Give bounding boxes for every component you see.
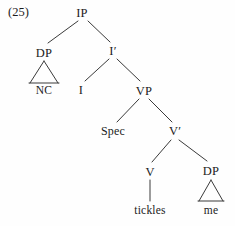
terminal-nc: NC xyxy=(36,85,52,97)
node-spec: Spec xyxy=(101,125,125,137)
branch-vp-vbar xyxy=(149,99,172,122)
node-vp: VP xyxy=(136,85,152,98)
node-v-head: V xyxy=(145,166,154,179)
node-v-bar: V′ xyxy=(169,125,181,138)
branch-ibar-i xyxy=(85,59,109,81)
triangle-me-right xyxy=(211,180,223,201)
syntax-tree-figure: (25) IP DP NC I′ I VP Spec V′ V tickles … xyxy=(0,0,235,226)
triangle-nc-right xyxy=(44,61,58,83)
branch-ip-ibar xyxy=(88,21,110,42)
branch-vp-spec xyxy=(117,99,139,122)
terminal-me: me xyxy=(204,205,218,217)
example-number: (25) xyxy=(8,6,29,19)
tree-branch-lines xyxy=(0,0,235,226)
triangle-me-left xyxy=(199,180,211,201)
branch-ip-dp xyxy=(48,21,78,43)
node-i-bar: I′ xyxy=(109,45,116,58)
node-dp-object: DP xyxy=(203,165,219,178)
branch-ibar-vp xyxy=(117,59,140,81)
node-i-head: I xyxy=(79,84,83,97)
node-ip: IP xyxy=(76,7,88,20)
branch-vbar-dp xyxy=(179,140,207,161)
triangle-nc-left xyxy=(30,61,44,83)
node-dp-subject: DP xyxy=(36,47,52,60)
branch-vbar-v xyxy=(152,140,171,162)
terminal-tickles: tickles xyxy=(134,205,165,217)
